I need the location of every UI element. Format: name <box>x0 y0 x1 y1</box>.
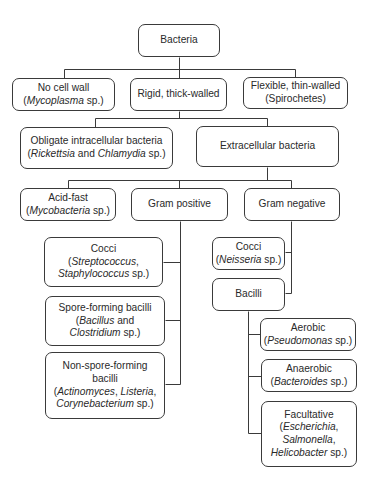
node-non-spore-forming: Non-spore-formingbacilli(Actinomyces, Li… <box>45 352 165 419</box>
node-text-line: Gram negative <box>259 198 326 211</box>
label-text: Cocci <box>91 243 116 254</box>
species-name: Corynebacterium <box>56 398 134 409</box>
label-text: sp.) <box>134 398 154 409</box>
node-text-line: Gram positive <box>148 198 211 211</box>
node-text-line: Obligate intracellular bacteria <box>31 135 163 148</box>
label-text: sp.) <box>262 254 282 265</box>
node-text-line: (Neisseria sp.) <box>216 254 282 267</box>
node-text-line: Non-spore-forming <box>63 360 148 373</box>
node-text-line: Staphylococcus sp.) <box>58 268 149 281</box>
node-text-line: (Mycobacteria sp.) <box>26 205 110 218</box>
node-text-line: Extracellular bacteria <box>220 140 315 153</box>
label-text: and <box>114 315 134 326</box>
species-name: Mycobacteria <box>29 205 90 216</box>
node-acid-fast: Acid-fast(Mycobacteria sp.) <box>20 188 116 221</box>
species-name: Clostridium <box>70 327 121 338</box>
species-name: Salmonella <box>282 434 332 445</box>
species-name: Streptococcus <box>72 256 137 267</box>
node-text-line: (Rickettsia and Chlamydia sp.) <box>27 148 165 161</box>
label-text: Gram positive <box>148 198 211 209</box>
label-text: No cell wall <box>38 82 90 93</box>
node-facultative: Facultative(Escherichia,Salmonella,Helic… <box>261 401 357 467</box>
node-extracellular: Extracellular bacteria <box>196 126 339 167</box>
label-text: sp.) <box>129 268 149 279</box>
label-text: Aerobic <box>291 322 326 333</box>
node-bacilli: Bacilli <box>212 278 285 311</box>
node-text-line: Helicobacter sp.) <box>271 447 347 460</box>
label-text: Obligate intracellular bacteria <box>31 135 163 146</box>
node-text-line: Cocci <box>236 241 261 254</box>
species-name: Helicobacter <box>271 447 328 458</box>
label-text: sp.) <box>328 376 348 387</box>
node-cocci-positive: Cocci(Streptococcus,Staphylococcus sp.) <box>44 237 163 287</box>
label-text: , <box>333 434 336 445</box>
label-text: , <box>153 386 156 397</box>
node-text-line: (Mycoplasma sp.) <box>23 95 103 108</box>
species-name: Neisseria <box>219 254 261 265</box>
node-text-line: Cocci <box>91 243 116 256</box>
label-text: Bacilli <box>235 288 262 299</box>
node-rigid: Rigid, thick-walled <box>130 78 227 111</box>
node-text-line: Anaerobic <box>286 363 332 376</box>
label-text: sp.) <box>90 205 110 216</box>
label-text: Cocci <box>236 241 261 252</box>
node-text-line: (Bacteroides sp.) <box>270 376 347 389</box>
node-text-line: (Escherichia, <box>280 421 339 434</box>
node-text-line: (Pseudomonas sp.) <box>264 335 352 348</box>
node-text-line: Facultative <box>284 409 333 422</box>
label-text: Bacteria <box>160 34 197 45</box>
label-text: bacilli <box>92 373 117 384</box>
node-gram-positive: Gram positive <box>131 188 228 221</box>
node-bacteria: Bacteria <box>138 24 220 57</box>
node-text-line: Rigid, thick-walled <box>137 88 219 101</box>
node-gram-negative: Gram negative <box>244 188 340 221</box>
node-text-line: (Streptococcus, <box>68 256 139 269</box>
species-name: Actinomyces <box>57 386 115 397</box>
species-name: Listeria <box>121 386 154 397</box>
node-text-line: Corynebacterium sp.) <box>56 398 153 411</box>
label-text: Gram negative <box>259 198 326 209</box>
node-text-line: bacilli <box>92 373 117 386</box>
node-no-cell-wall: No cell wall(Mycoplasma sp.) <box>12 78 115 111</box>
label-text: , <box>136 256 139 267</box>
node-text-line: Flexible, thin-walled <box>251 80 340 93</box>
label-text: Acid-fast <box>48 192 88 203</box>
label-text: sp.) <box>84 95 104 106</box>
species-name: Bacillus <box>79 315 114 326</box>
species-name: Pseudomonas <box>267 335 332 346</box>
label-text: Rigid, thick-walled <box>137 88 219 99</box>
label-text: sp.) <box>121 327 141 338</box>
node-text-line: Bacteria <box>160 34 197 47</box>
node-text-line: Aerobic <box>291 322 326 335</box>
node-text-line: Salmonella, <box>282 434 335 447</box>
node-text-line: (Actinomyces, Listeria, <box>54 386 157 399</box>
node-anaerobic: Anaerobic(Bacteroides sp.) <box>261 359 357 392</box>
label-text: Facultative <box>284 409 333 420</box>
node-text-line: Clostridium sp.) <box>70 327 141 340</box>
node-text-line: Acid-fast <box>48 192 88 205</box>
node-obligate: Obligate intracellular bacteria(Ricketts… <box>20 127 173 169</box>
node-text-line: Spore-forming bacilli <box>59 302 152 315</box>
label-text: , <box>336 421 339 432</box>
species-name: Rickettsia <box>31 148 75 159</box>
label-text: sp.) <box>327 447 347 458</box>
label-text: Non-spore-forming <box>63 360 148 371</box>
node-cocci-negative: Cocci(Neisseria sp.) <box>212 237 285 270</box>
node-text-line: (Bacillus and <box>76 315 134 328</box>
label-text: and <box>75 148 98 159</box>
node-text-line: No cell wall <box>38 82 90 95</box>
node-text-line: Bacilli <box>235 288 262 301</box>
label-text: (Spirochetes) <box>265 93 326 104</box>
label-text: Anaerobic <box>286 363 332 374</box>
node-flexible: Flexible, thin-walled(Spirochetes) <box>243 77 348 109</box>
label-text: Spore-forming bacilli <box>59 302 152 313</box>
node-spore-forming: Spore-forming bacilli(Bacillus andClostr… <box>45 296 165 346</box>
species-name: Escherichia <box>283 421 336 432</box>
label-text: Extracellular bacteria <box>220 140 315 151</box>
label-text: sp.) <box>332 335 352 346</box>
species-name: Bacteroides <box>274 376 328 387</box>
label-text: Flexible, thin-walled <box>251 80 340 91</box>
node-aerobic: Aerobic(Pseudomonas sp.) <box>260 318 356 351</box>
species-name: Staphylococcus <box>58 268 129 279</box>
label-text: sp.) <box>146 148 166 159</box>
